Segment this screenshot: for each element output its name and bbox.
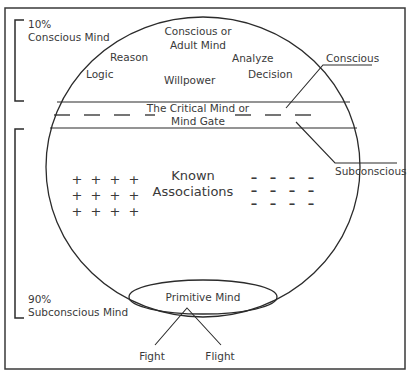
plus-symbol: + [72, 172, 83, 187]
primitive-mind-label: Primitive Mind [166, 291, 241, 303]
reason-label: Reason [110, 51, 148, 63]
negative-associations-grid: –––––––––––– [251, 170, 315, 211]
plus-symbol: + [129, 188, 140, 203]
plus-symbol: + [72, 204, 83, 219]
positive-associations-grid: ++++++++++++ [72, 172, 140, 219]
decision-label: Decision [248, 68, 293, 80]
known-associations-label-2: Associations [153, 184, 234, 199]
plus-symbol: + [72, 188, 83, 203]
subconscious-percent: 90% [28, 293, 51, 305]
critical-mind-label-2: Mind Gate [171, 115, 225, 127]
minus-symbol: – [270, 196, 277, 211]
flight-label: Flight [205, 350, 234, 362]
plus-symbol: + [91, 172, 102, 187]
subconscious-mind-label: Subconscious Mind [28, 306, 128, 318]
conscious-adult-mind-title-2: Adult Mind [170, 39, 226, 51]
conscious-adult-mind-title-1: Conscious or [164, 25, 232, 37]
conscious-bracket [15, 20, 24, 101]
plus-symbol: + [110, 188, 121, 203]
minus-symbol: – [289, 196, 296, 211]
conscious-callout-label: Conscious [326, 52, 379, 64]
plus-symbol: + [129, 204, 140, 219]
conscious-mind-label: Conscious Mind [28, 31, 110, 43]
minus-symbol: – [308, 196, 315, 211]
critical-mind-label-1: The Critical Mind or [146, 102, 250, 114]
willpower-label: Willpower [164, 74, 216, 86]
plus-symbol: + [91, 204, 102, 219]
conscious-percent: 10% [28, 18, 51, 30]
mind-circle [46, 17, 360, 317]
known-associations-label-1: Known [171, 168, 215, 183]
fight-label: Fight [139, 350, 165, 362]
mind-model-diagram: 10% Conscious Mind 90% Subconscious Mind… [0, 0, 411, 374]
plus-symbol: + [91, 188, 102, 203]
minus-symbol: – [251, 196, 258, 211]
plus-symbol: + [110, 172, 121, 187]
subconscious-bracket [15, 129, 24, 318]
logic-label: Logic [86, 68, 114, 80]
subconscious-callout-label: Subconscious [335, 165, 407, 177]
plus-symbol: + [110, 204, 121, 219]
analyze-label: Analyze [232, 52, 273, 64]
plus-symbol: + [129, 172, 140, 187]
